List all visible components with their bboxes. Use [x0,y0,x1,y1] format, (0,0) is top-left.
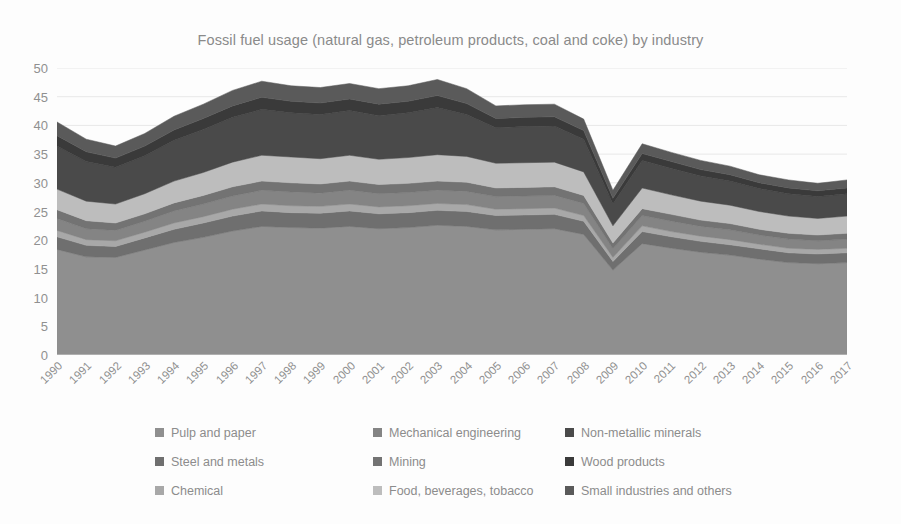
legend-label: Non-metallic minerals [581,426,701,440]
y-axis-tick-15: 15 [2,262,48,275]
legend-swatch-icon [565,486,574,495]
x-axis-tick-2007: 2007 [536,360,562,386]
legend-item-4[interactable]: Mining [373,455,565,469]
chart-legend: Pulp and paperMechanical engineeringNon-… [155,418,775,505]
legend-item-0[interactable]: Pulp and paper [155,426,373,440]
x-axis-tick-2014: 2014 [741,360,767,386]
y-axis: 50454035302520151050 [0,68,48,355]
legend-label: Steel and metals [171,455,264,469]
legend-label: Chemical [171,484,223,498]
x-axis-tick-2006: 2006 [507,360,533,386]
x-axis-tick-2009: 2009 [594,360,620,386]
legend-swatch-icon [155,428,164,437]
stacked-area-plot [57,68,847,355]
plot-area [57,68,847,355]
legend-swatch-icon [373,457,382,466]
legend-item-7[interactable]: Wood products [565,455,775,469]
x-axis-tick-2005: 2005 [477,360,503,386]
x-axis-tick-2008: 2008 [565,360,591,386]
y-axis-tick-20: 20 [2,234,48,247]
x-axis-tick-1990: 1990 [38,360,64,386]
x-axis-tick-2001: 2001 [360,360,386,386]
x-axis-tick-2017: 2017 [828,360,854,386]
legend-swatch-icon [155,486,164,495]
legend-label: Food, beverages, tobacco [389,484,534,498]
legend-label: Wood products [581,455,665,469]
legend-item-5[interactable]: Food, beverages, tobacco [373,484,565,498]
legend-label: Mechanical engineering [389,426,521,440]
x-axis-tick-2003: 2003 [419,360,445,386]
y-axis-tick-25: 25 [2,205,48,218]
x-axis-tick-1994: 1994 [156,360,182,386]
legend-item-1[interactable]: Steel and metals [155,455,373,469]
x-axis-tick-2011: 2011 [653,360,679,386]
y-axis-tick-30: 30 [2,176,48,189]
x-axis-tick-2004: 2004 [448,360,474,386]
y-axis-tick-5: 5 [2,320,48,333]
x-axis-tick-2016: 2016 [799,360,825,386]
x-axis-tick-1991: 1991 [68,360,94,386]
legend-item-6[interactable]: Non-metallic minerals [565,426,775,440]
chart-container: Fossil fuel usage (natural gas, petroleu… [0,0,901,524]
x-axis-tick-2015: 2015 [770,360,796,386]
x-axis: 1990199119921993199419951996199719981999… [57,358,847,406]
legend-swatch-icon [565,428,574,437]
legend-label: Mining [389,455,426,469]
chart-title: Fossil fuel usage (natural gas, petroleu… [0,32,901,48]
legend-label: Pulp and paper [171,426,256,440]
legend-item-3[interactable]: Mechanical engineering [373,426,565,440]
x-axis-tick-1997: 1997 [243,360,269,386]
x-axis-tick-1998: 1998 [273,360,299,386]
y-axis-tick-10: 10 [2,291,48,304]
legend-item-8[interactable]: Small industries and others [565,484,775,498]
legend-swatch-icon [373,428,382,437]
x-axis-tick-1992: 1992 [97,360,123,386]
x-axis-tick-1993: 1993 [126,360,152,386]
x-axis-tick-2002: 2002 [390,360,416,386]
x-axis-tick-1999: 1999 [302,360,328,386]
legend-label: Small industries and others [581,484,732,498]
x-axis-tick-1996: 1996 [214,360,240,386]
legend-swatch-icon [565,457,574,466]
x-axis-tick-2012: 2012 [682,360,708,386]
y-axis-tick-45: 45 [2,90,48,103]
legend-item-2[interactable]: Chemical [155,484,373,498]
x-axis-tick-2013: 2013 [711,360,737,386]
y-axis-tick-50: 50 [2,62,48,75]
legend-swatch-icon [373,486,382,495]
x-axis-tick-2010: 2010 [624,360,650,386]
x-axis-tick-1995: 1995 [185,360,211,386]
legend-swatch-icon [155,457,164,466]
y-axis-tick-35: 35 [2,148,48,161]
y-axis-tick-40: 40 [2,119,48,132]
y-axis-tick-0: 0 [2,349,48,362]
x-axis-tick-2000: 2000 [331,360,357,386]
